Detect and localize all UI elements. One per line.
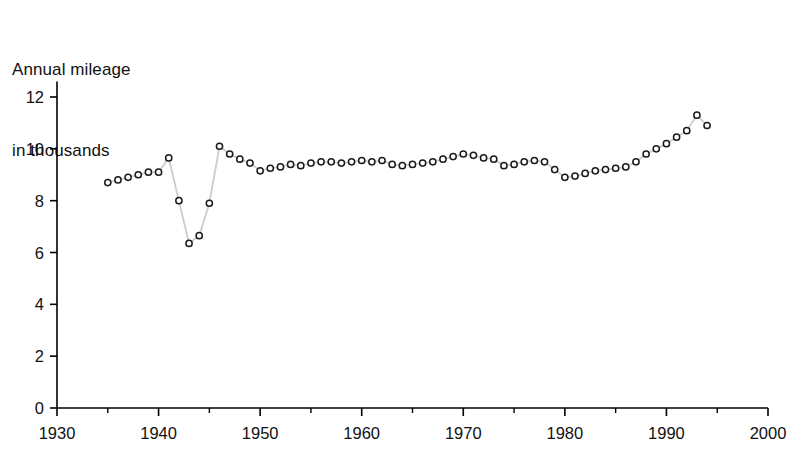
data-point-marker xyxy=(602,166,608,172)
data-point-marker xyxy=(694,112,700,118)
data-point-marker xyxy=(481,155,487,161)
y-tick-label: 0 xyxy=(35,399,44,417)
axis-lines xyxy=(57,81,768,408)
data-point-marker xyxy=(257,168,263,174)
x-tick-label: 1970 xyxy=(445,424,482,442)
data-point-marker xyxy=(704,122,710,128)
data-point-marker xyxy=(653,146,659,152)
data-point-marker xyxy=(470,152,476,158)
data-point-marker xyxy=(348,159,354,165)
x-tick-label: 1960 xyxy=(343,424,380,442)
data-point-marker xyxy=(369,159,375,165)
data-point-marker xyxy=(125,174,131,180)
data-point-marker xyxy=(623,164,629,170)
data-point-marker xyxy=(359,157,365,163)
data-point-marker xyxy=(541,159,547,165)
data-point-marker xyxy=(247,160,253,166)
data-point-marker xyxy=(643,151,649,157)
annual-mileage-chart: Annual mileage in thousands 024681012 19… xyxy=(0,0,797,453)
data-point-marker xyxy=(511,161,517,167)
data-point-marker xyxy=(318,159,324,165)
data-point-marker xyxy=(450,154,456,160)
data-series-markers xyxy=(105,112,710,246)
data-point-marker xyxy=(409,161,415,167)
data-point-marker xyxy=(298,163,304,169)
chart-plot-area: 024681012 193019401950196019701980199020… xyxy=(0,0,797,453)
data-point-marker xyxy=(145,169,151,175)
data-point-marker xyxy=(613,165,619,171)
data-point-marker xyxy=(135,172,141,178)
data-point-marker xyxy=(663,141,669,147)
data-point-marker xyxy=(521,159,527,165)
data-point-marker xyxy=(399,163,405,169)
series-polyline xyxy=(108,115,707,243)
data-point-marker xyxy=(176,198,182,204)
y-tick-label: 2 xyxy=(35,347,44,365)
data-series-line xyxy=(108,115,707,243)
y-tick-label: 12 xyxy=(26,88,44,106)
data-point-marker xyxy=(633,159,639,165)
data-point-marker xyxy=(582,170,588,176)
data-point-marker xyxy=(460,151,466,157)
data-point-marker xyxy=(105,179,111,185)
x-tick-label: 1940 xyxy=(140,424,177,442)
data-point-marker xyxy=(206,200,212,206)
data-point-marker xyxy=(216,143,222,149)
data-point-marker xyxy=(155,169,161,175)
x-tick-label: 1980 xyxy=(546,424,583,442)
x-tick-label: 1930 xyxy=(39,424,76,442)
data-point-marker xyxy=(186,240,192,246)
data-point-marker xyxy=(501,163,507,169)
y-tick-label: 8 xyxy=(35,192,44,210)
data-point-marker xyxy=(684,128,690,134)
data-point-marker xyxy=(166,155,172,161)
data-point-marker xyxy=(308,160,314,166)
x-axis-ticks: 19301940195019601970198019902000 xyxy=(39,408,787,442)
data-point-marker xyxy=(673,134,679,140)
data-point-marker xyxy=(288,161,294,167)
data-point-marker xyxy=(277,164,283,170)
y-tick-label: 10 xyxy=(26,140,44,158)
data-point-marker xyxy=(440,156,446,162)
y-tick-label: 6 xyxy=(35,244,44,262)
data-point-marker xyxy=(420,160,426,166)
data-point-marker xyxy=(430,159,436,165)
y-tick-label: 4 xyxy=(35,295,44,313)
x-tick-label: 1990 xyxy=(648,424,685,442)
data-point-marker xyxy=(531,157,537,163)
y-axis-ticks: 024681012 xyxy=(26,88,57,417)
data-point-marker xyxy=(328,159,334,165)
data-point-marker xyxy=(389,161,395,167)
data-point-marker xyxy=(491,156,497,162)
data-point-marker xyxy=(196,233,202,239)
data-point-marker xyxy=(572,173,578,179)
x-tick-label: 1950 xyxy=(242,424,279,442)
data-point-marker xyxy=(562,174,568,180)
data-point-marker xyxy=(267,165,273,171)
data-point-marker xyxy=(379,157,385,163)
x-tick-label: 2000 xyxy=(750,424,787,442)
data-point-marker xyxy=(592,168,598,174)
data-point-marker xyxy=(552,166,558,172)
data-point-marker xyxy=(237,156,243,162)
data-point-marker xyxy=(227,151,233,157)
data-point-marker xyxy=(115,177,121,183)
data-point-marker xyxy=(338,160,344,166)
